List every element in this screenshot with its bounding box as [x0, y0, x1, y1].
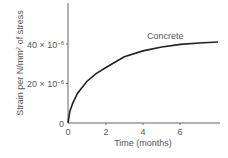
y-tick-label-0: 0 — [59, 119, 64, 129]
y-axis-label: Strain per N/mm2 of stress — [15, 10, 25, 116]
x-tick-label-4: 4 — [140, 127, 145, 137]
x-tick-label-0: 0 — [65, 127, 70, 137]
y-tick-label-40: 40 × 10−6 — [27, 40, 65, 50]
series-annotation-concrete: Concrete — [147, 31, 184, 41]
x-axis-label: Time (months) — [114, 138, 172, 148]
concrete-creep-curve — [68, 42, 218, 123]
x-tick-label-2: 2 — [103, 127, 108, 137]
y-tick-label-20: 20 × 10−6 — [27, 79, 65, 89]
x-tick-label-6: 6 — [177, 127, 182, 137]
creep-chart: 0 20 × 10−6 40 × 10−6 0 2 4 6 Time (mont… — [0, 0, 228, 158]
